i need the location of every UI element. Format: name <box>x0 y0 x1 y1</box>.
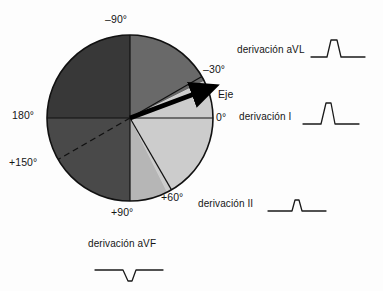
degree-label-minus-30: –30° <box>203 64 225 75</box>
degree-label-180: 180° <box>12 110 34 121</box>
degree-label-minus-90: –90° <box>105 14 127 25</box>
degree-label-plus-60: +60° <box>161 192 183 203</box>
lead-label-avl: derivación aVL <box>237 45 305 55</box>
hexaxial-axis-figure: –90° –30° Eje 0° 180° +150° +90° +60° de… <box>0 0 383 291</box>
degree-label-plus-150: +150° <box>9 157 37 168</box>
degree-label-zero: 0° <box>216 112 226 123</box>
lead-ii-tracing <box>268 200 326 211</box>
lead-avl-tracing <box>311 40 365 57</box>
lead-i-tracing <box>303 103 359 124</box>
figure-canvas <box>0 0 383 291</box>
lead-avf-tracing <box>95 270 163 281</box>
degree-label-plus-90: +90° <box>111 207 133 218</box>
lead-label-avf: derivación aVF <box>88 239 156 249</box>
axis-vector-label: Eje <box>218 89 233 100</box>
lead-label-ii: derivación II <box>198 199 253 209</box>
lead-label-i: derivación I <box>239 112 291 122</box>
